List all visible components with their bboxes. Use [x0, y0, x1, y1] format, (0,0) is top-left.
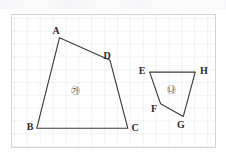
vertex-label-d: D — [103, 51, 110, 61]
geometry-figure-frame: A B C D ㉮ E H G F ㉯ — [11, 14, 216, 148]
shape-quadrilateral-abcd — [37, 38, 128, 129]
vertex-label-f: F — [151, 104, 157, 114]
vertex-label-g: G — [177, 120, 185, 130]
scan-artifact-band — [0, 0, 226, 9]
vertex-label-h: H — [200, 66, 208, 76]
vertex-label-a: A — [52, 26, 59, 36]
vertex-label-e: E — [139, 66, 146, 76]
vertex-label-b: B — [27, 122, 34, 132]
region-label-ga: ㉮ — [71, 87, 80, 96]
vertex-label-c: C — [131, 123, 138, 133]
region-label-na: ㉯ — [167, 86, 176, 95]
figure-page: A B C D ㉮ E H G F ㉯ — [0, 0, 226, 157]
